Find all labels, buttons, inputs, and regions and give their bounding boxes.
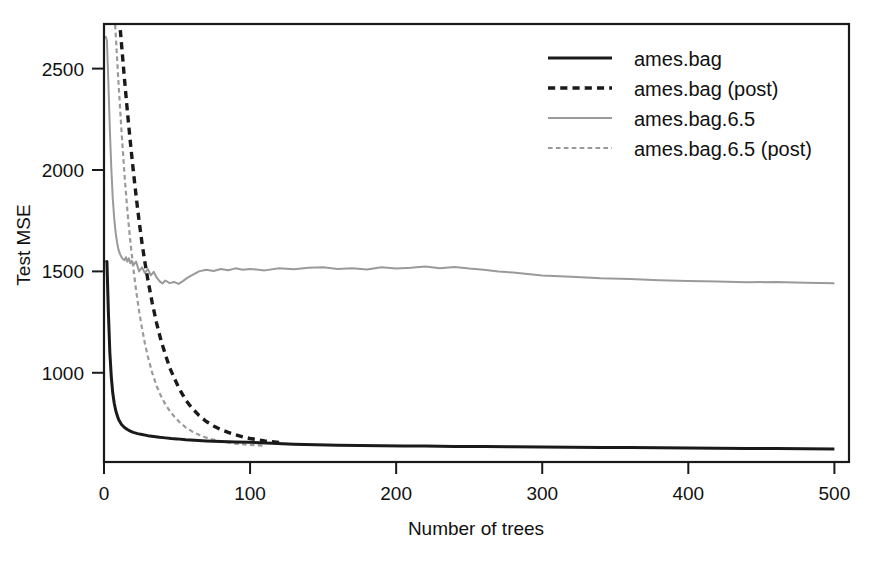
y-axis-title: Test MSE	[13, 204, 34, 285]
x-tick-label: 100	[234, 483, 266, 504]
x-axis-title: Number of trees	[408, 518, 544, 539]
x-tick-label: 500	[819, 483, 851, 504]
x-tick-label: 300	[526, 483, 558, 504]
legend-label: ames.bag.6.5 (post)	[634, 138, 812, 160]
y-tick-label: 1000	[42, 363, 84, 384]
legend-label: ames.bag.6.5	[634, 108, 755, 130]
test-mse-vs-number-of-trees-chart: 01002003004005001000150020002500 ames.ba…	[0, 0, 869, 565]
x-tick-label: 0	[99, 483, 110, 504]
x-tick-label: 400	[672, 483, 704, 504]
y-tick-label: 1500	[42, 261, 84, 282]
legend-label: ames.bag	[634, 48, 722, 70]
y-tick-label: 2000	[42, 160, 84, 181]
y-tick-label: 2500	[42, 59, 84, 80]
legend-label: ames.bag (post)	[634, 78, 779, 100]
x-tick-label: 200	[380, 483, 412, 504]
